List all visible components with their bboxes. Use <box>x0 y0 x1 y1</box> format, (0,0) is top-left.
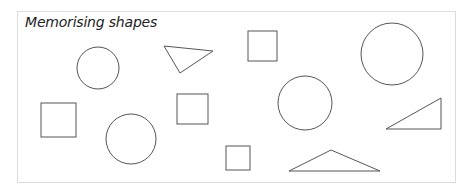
circle-shape <box>361 23 423 85</box>
circle-shape <box>278 76 332 130</box>
shapes-canvas <box>0 0 474 192</box>
triangle-shape <box>386 98 441 129</box>
square-shape <box>248 31 277 61</box>
square-shape <box>41 103 76 137</box>
triangle-shape <box>164 46 213 73</box>
square-shape <box>226 146 250 170</box>
circle-shape <box>77 47 119 89</box>
square-shape <box>177 94 208 124</box>
circle-shape <box>106 114 156 164</box>
triangle-shape <box>289 150 380 171</box>
